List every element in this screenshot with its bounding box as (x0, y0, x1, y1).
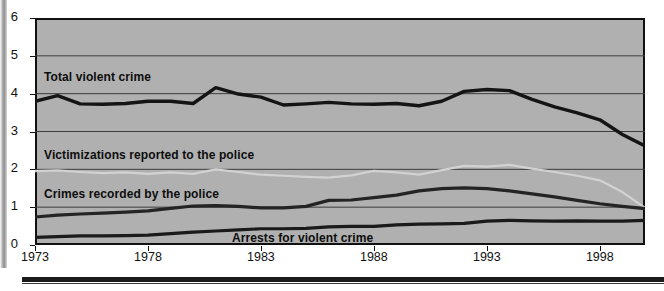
series-label-2: Crimes recorded by the police (44, 187, 219, 201)
y-axis-tick-label: 3 (0, 124, 18, 137)
x-axis-tick-mark (600, 246, 601, 251)
x-axis-tick-mark (487, 246, 488, 251)
footer-rule-thick (22, 277, 664, 282)
x-axis-tick-mark (374, 246, 375, 251)
chart-plot-area (35, 18, 645, 245)
x-axis-tick-mark (148, 246, 149, 251)
y-axis-tick-label: 4 (0, 86, 18, 99)
x-axis-tick-label: 1993 (473, 250, 501, 264)
y-axis-tick-mark (30, 207, 35, 208)
series-label-1: Victimizations reported to the police (44, 148, 254, 162)
x-axis-tick-label: 1973 (21, 250, 49, 264)
y-axis-tick-mark (30, 94, 35, 95)
x-axis-tick-mark (261, 246, 262, 251)
x-axis-tick-label: 1983 (247, 250, 275, 264)
series-label-3: Arrests for violent crime (232, 231, 373, 245)
series-label-0: Total violent crime (44, 70, 151, 84)
y-axis-tick-label: 0 (0, 237, 18, 250)
y-axis-tick-mark (30, 56, 35, 57)
x-axis-tick-label: 1998 (586, 250, 614, 264)
y-axis-tick-label: 6 (0, 10, 18, 23)
series-line-0 (35, 88, 645, 146)
x-axis-tick-label: 1978 (134, 250, 162, 264)
chart-series-svg (35, 18, 645, 245)
footer-rule-thin (22, 283, 664, 284)
y-axis-tick-label: 5 (0, 48, 18, 61)
y-axis-tick-label: 2 (0, 161, 18, 174)
y-axis-tick-label: 1 (0, 199, 18, 212)
y-axis-tick-mark (30, 18, 35, 19)
y-axis-tick-mark (30, 169, 35, 170)
x-axis-tick-label: 1988 (360, 250, 388, 264)
y-axis-tick-mark (30, 132, 35, 133)
x-axis-tick-mark (35, 246, 36, 251)
